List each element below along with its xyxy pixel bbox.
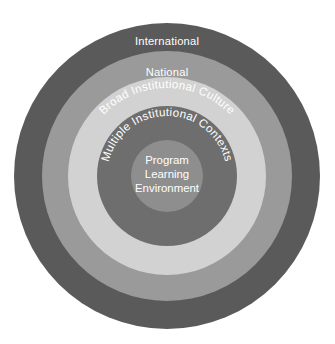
core-label-line-1: Program [145,154,189,166]
concentric-context-diagram: International National Broad Institution… [0,0,335,344]
core-label-line-3: Environment [135,182,200,194]
core-label-line-2: Learning [145,168,189,180]
ring-label-international: International [135,35,199,47]
diagram-canvas: International National Broad Institution… [0,0,335,344]
